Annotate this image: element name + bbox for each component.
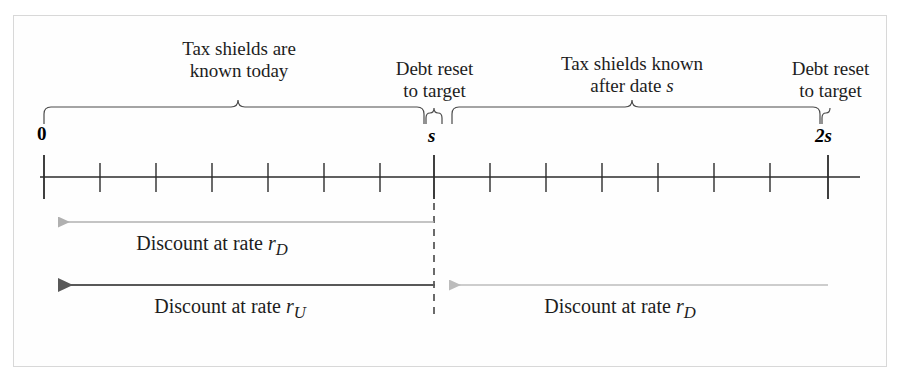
brace-label-reset-at-s-line2: to target — [366, 80, 503, 102]
arrow-label-rd-second-subscript: D — [684, 303, 696, 322]
brace-label-reset-at-s-line1: Debt reset — [366, 58, 503, 80]
axis-label-s: s — [428, 125, 435, 147]
arrow-label-rd-first-symbol: r — [268, 232, 276, 254]
brace-reset-at-s — [426, 108, 442, 124]
brace-label-known-after-s: Tax shields known after date s — [521, 53, 743, 98]
brace-known-after-s — [452, 100, 820, 124]
arrow-label-rd-second-period: Discount at rate rD — [500, 295, 740, 323]
brace-label-known-after-s-italic-s: s — [666, 75, 673, 96]
brace-label-known-today: Tax shields are known today — [124, 38, 354, 83]
figure-container: Tax shields are known today Debt reset t… — [0, 0, 906, 386]
brace-label-known-after-s-line2: after date s — [521, 75, 743, 97]
timeline-axis — [40, 155, 860, 199]
arrow-label-ru-unlevered: Discount at rate rU — [110, 295, 350, 323]
arrow-label-rd-second-prefix: Discount at rate — [544, 295, 676, 317]
arrow-label-ru-symbol: r — [286, 295, 294, 317]
brace-label-known-today-line2: known today — [124, 60, 354, 82]
arrow-label-rd-first-period: Discount at rate rD — [92, 232, 332, 260]
brace-known-today — [44, 100, 424, 124]
brace-label-reset-at-2s: Debt reset to target — [762, 58, 899, 103]
arrow-label-rd-first-prefix: Discount at rate — [136, 232, 268, 254]
arrow-label-rd-second-symbol: r — [676, 295, 684, 317]
brace-label-reset-at-2s-line2: to target — [762, 80, 899, 102]
axis-label-0: 0 — [37, 123, 47, 145]
brace-label-reset-at-s: Debt reset to target — [366, 58, 503, 103]
brace-label-known-today-line1: Tax shields are — [124, 38, 354, 60]
brace-label-reset-at-2s-line1: Debt reset — [762, 58, 899, 80]
arrow-label-ru-subscript: U — [294, 303, 306, 322]
arrow-label-ru-prefix: Discount at rate — [154, 295, 286, 317]
brace-reset-at-2s — [822, 108, 830, 124]
arrow-label-rd-first-subscript: D — [276, 240, 288, 259]
brace-label-known-after-s-line1: Tax shields known — [521, 53, 743, 75]
axis-label-2s: 2s — [815, 125, 832, 147]
